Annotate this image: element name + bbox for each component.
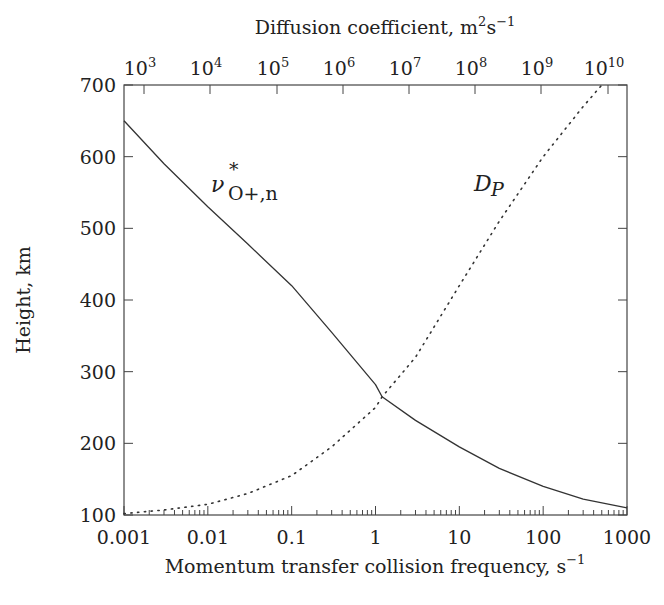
x2-tick-label: 109 — [521, 55, 553, 79]
x-tick-label: 10 — [447, 526, 471, 548]
x-tick-label: 1 — [369, 526, 381, 548]
x2-tick-label: 107 — [389, 55, 421, 79]
x-tick-label: 0.001 — [97, 526, 151, 548]
y-tick-label: 700 — [80, 74, 116, 96]
axis-ticks — [124, 85, 627, 515]
series-collision-frequency — [124, 121, 627, 508]
x2-tick-label: 106 — [323, 55, 355, 79]
x2-tick-label: 103 — [124, 55, 156, 79]
y-tick-label: 100 — [80, 504, 116, 526]
chart-canvas: 0.0010.010.11101001000100200300400500600… — [0, 0, 664, 605]
x-tick-label: 1000 — [603, 526, 651, 548]
x-tick-label: 0.01 — [187, 526, 229, 548]
series-diffusion-coefficient — [124, 85, 602, 514]
plot-border — [124, 85, 627, 515]
x-axis-title: Momentum transfer collision frequency, s… — [165, 552, 586, 577]
series-group — [124, 85, 627, 514]
x2-tick-label: 104 — [190, 55, 222, 79]
label-dp-sub: P — [490, 178, 505, 200]
x-tick-label: 100 — [525, 526, 561, 548]
label-dp-curve: D — [473, 171, 492, 196]
x-tick-label: 0.1 — [277, 526, 307, 548]
y-axis-title: Height, km — [12, 246, 34, 354]
x2-tick-label: 108 — [455, 55, 487, 79]
x2-tick-label: 1010 — [584, 55, 625, 79]
y-tick-label: 200 — [80, 432, 116, 454]
plot-frame — [124, 85, 627, 515]
y-tick-label: 300 — [80, 361, 116, 383]
label-nu-sub: O+,n — [228, 182, 278, 204]
y-tick-label: 500 — [80, 217, 116, 239]
x2-axis-title: Diffusion coefficient, m2s−1 — [255, 14, 516, 38]
y-tick-label: 400 — [80, 289, 116, 311]
y-tick-label: 600 — [80, 146, 116, 168]
x2-tick-label: 105 — [257, 55, 289, 79]
label-nu-curve: ν — [211, 172, 224, 197]
label-nu-sup: * — [229, 158, 239, 180]
axis-labels: 0.0010.010.11101001000100200300400500600… — [12, 14, 651, 577]
